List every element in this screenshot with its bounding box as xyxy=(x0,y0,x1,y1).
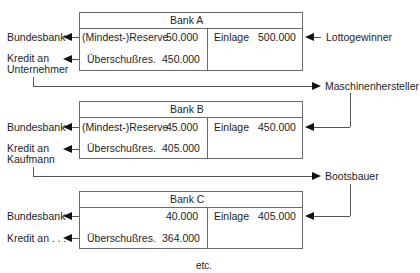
bank-c-title: Bank C xyxy=(170,193,204,205)
bank-a-deposit-arrow-line xyxy=(314,37,321,38)
bank-b-deposit-label: Einlage xyxy=(214,121,249,133)
bank-b-divider xyxy=(207,117,208,158)
bank-a-reserve-label: (Mindest-)Reserve xyxy=(82,31,168,43)
connector-c-right-down xyxy=(350,184,351,216)
bank-b-title: Bank B xyxy=(170,103,204,115)
bank-a-title: Bank A xyxy=(170,14,203,26)
bank-b-reserve-arrow-icon xyxy=(63,123,72,131)
bank-c-reserve-arrow-icon xyxy=(63,212,72,220)
bank-b-excess-label: Überschußres. xyxy=(87,142,156,154)
bank-a-reserve-arrow-icon xyxy=(63,33,72,41)
bank-a-excess-label: Überschußres. xyxy=(87,53,156,65)
bank-a-credit-arrow-line xyxy=(72,59,79,60)
bank-c-excess-label: Überschußres. xyxy=(87,232,156,244)
bank-c-deposit-label: Einlage xyxy=(214,210,249,222)
bank-b-credit-label-2: Kaufmann xyxy=(7,153,55,165)
bank-a-deposit-arrow-icon xyxy=(305,33,314,41)
bank-a-deposit-label: Einlage xyxy=(214,31,249,43)
bank-b-credit-arrow-icon xyxy=(63,145,72,153)
bank-a-deposit-value: 500.000 xyxy=(258,31,296,43)
bank-a-credit-label-2: Unternehmer xyxy=(7,63,68,75)
bank-b-excess-value: 405.000 xyxy=(162,142,200,154)
bank-b-reserve-label: (Mindest-)Reserve xyxy=(82,121,168,133)
connector-c-right-horizontal xyxy=(314,216,350,217)
connector-a-arrow-icon xyxy=(312,82,321,90)
bank-b-deposit-value: 450.000 xyxy=(258,121,296,133)
bank-a-reserve-value: 50.000 xyxy=(166,31,198,43)
bank-b-source-label: Maschinenhersteller xyxy=(325,80,419,92)
bank-a-reserve-arrow-line xyxy=(72,37,79,38)
bank-c-excess-value: 364.000 xyxy=(162,232,200,244)
bank-a-bundesbank-label: Bundesbank xyxy=(7,31,65,43)
connector-b-down xyxy=(33,167,34,176)
bank-a-credit-arrow-icon xyxy=(63,55,72,63)
bank-a-source-label: Lottogewinner xyxy=(326,31,392,43)
connector-b-right-horizontal xyxy=(314,127,350,128)
bank-c-reserve-value: 40.000 xyxy=(166,210,198,222)
bank-c-credit-label: Kredit an . . . xyxy=(7,232,67,244)
connector-b-right-down xyxy=(350,93,351,127)
bank-c-deposit-value: 405.000 xyxy=(258,210,296,222)
connector-b-horizontal xyxy=(33,176,313,177)
bank-c-deposit-arrow-icon xyxy=(305,212,314,220)
bank-c-credit-arrow-icon xyxy=(63,234,72,242)
bank-c-reserve-arrow-line xyxy=(72,216,79,217)
bank-b-reserve-arrow-line xyxy=(72,127,79,128)
bank-a-excess-value: 450.000 xyxy=(162,53,200,65)
footer-etc: etc. xyxy=(196,260,212,272)
bank-b-bundesbank-label: Bundesbank xyxy=(7,121,65,133)
connector-a-horizontal xyxy=(33,86,313,87)
bank-c-bundesbank-label: Bundesbank xyxy=(7,210,65,222)
bank-c-source-label: Bootsbauer xyxy=(325,170,379,182)
bank-a-divider xyxy=(207,28,208,70)
connector-b-arrow-icon xyxy=(312,172,321,180)
bank-b-credit-arrow-line xyxy=(72,149,79,150)
connector-a-down xyxy=(33,77,34,86)
bank-b-reserve-value: 45.000 xyxy=(166,121,198,133)
bank-b-deposit-arrow-icon xyxy=(305,123,314,131)
bank-c-divider xyxy=(207,207,208,248)
bank-c-credit-arrow-line xyxy=(72,238,79,239)
